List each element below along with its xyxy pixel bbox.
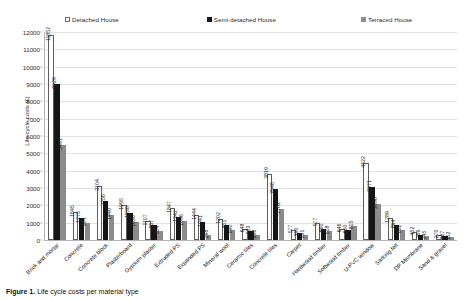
bar-value-label: 227 [439, 231, 445, 240]
bar-value-label: 1782 [275, 202, 281, 214]
bar-group: 184713421096 [166, 32, 190, 240]
bar-value-label: 245 [421, 230, 427, 239]
bar: 9029 [54, 84, 59, 241]
bar: 5491 [60, 145, 65, 240]
bar-value-label: 11852 [45, 27, 51, 41]
x-axis-label-cell: Expanded PS [189, 242, 213, 290]
bar-group: 977660518 [312, 32, 336, 240]
legend-item-semi-detached-house: Semi-detached House [207, 16, 276, 23]
y-axis-tick-mark [40, 222, 43, 223]
bar-value-label: 590 [227, 224, 233, 233]
bar-group: 577390281 [287, 32, 311, 240]
y-axis-tick-mark [40, 205, 43, 206]
bar: 298 [206, 235, 211, 240]
x-axis-label-cell: Brick and mortar [44, 242, 68, 290]
bar: 1030 [133, 222, 138, 240]
bar-value-label: 5491 [57, 138, 63, 150]
chart-figure: Detached House Semi-detached House Terra… [0, 0, 464, 300]
square-grey-icon [361, 17, 366, 22]
bar-value-label: 660 [318, 223, 324, 232]
bar-group: 1202851590 [215, 32, 239, 240]
caption-text: Life cycle costs per material type [37, 288, 139, 295]
bar-group: 1107857504 [142, 32, 166, 240]
y-axis-tick-label: 0 [6, 237, 40, 244]
x-axis-label-cell: U-PVC window [359, 242, 383, 290]
bar: 815 [351, 226, 356, 240]
bar-group: 310422561440 [93, 32, 117, 240]
bar-group: 14441041298 [190, 32, 214, 240]
bar-value-label: 1041 [197, 215, 203, 227]
caption-prefix: Figure 1. [6, 288, 35, 295]
bar-value-label: 269 [415, 230, 421, 239]
y-axis-tick-mark [40, 101, 43, 102]
bar: 2098 [375, 204, 380, 240]
bar-value-label: 1440 [106, 208, 112, 220]
figure-caption: Figure 1. Life cycle costs per material … [6, 288, 139, 295]
bar: 1096 [182, 221, 187, 240]
bar-value-label: 4422 [360, 157, 366, 169]
bar-value-label: 1444 [191, 208, 197, 220]
bar-value-label: 504 [154, 226, 160, 235]
y-axis-tick-mark [40, 118, 43, 119]
bar: 1782 [279, 209, 284, 240]
legend-label: Semi-detached House [214, 16, 276, 23]
bar-group: 648523288 [239, 32, 263, 240]
bar-group: 381929461782 [263, 32, 287, 240]
y-axis-tick-label: 12000 [6, 29, 40, 36]
y-axis-tick-label: 11000 [6, 46, 40, 53]
x-axis-label-cell: Gypsum plaster [141, 242, 165, 290]
bar-value-label: 2256 [100, 194, 106, 206]
y-axis-tick-label: 7000 [6, 115, 40, 122]
y-axis-tick-mark [40, 84, 43, 85]
y-axis-ticks: 0100020003000400050006000700080009000100… [0, 0, 40, 300]
bar: 288 [254, 235, 259, 240]
bar-value-label: 518 [324, 226, 330, 235]
plot-area: 1185290295491164512759643104225614401995… [44, 32, 457, 241]
bar-value-label: 2098 [372, 197, 378, 209]
bar-group: 452269245 [409, 32, 433, 240]
bar-value-label: 1030 [130, 215, 136, 227]
x-axis-labels: Brick and mortarConcreteConcrete blockPl… [44, 242, 456, 290]
bar-group: 199515381030 [118, 32, 142, 240]
bar-value-label: 1995 [118, 199, 124, 211]
bar: 152 [448, 237, 453, 240]
bar: 4422 [363, 163, 368, 240]
y-axis-tick-mark [40, 136, 43, 137]
bar-group: 16451275964 [69, 32, 93, 240]
bar: 3071 [369, 187, 374, 240]
bar-value-label: 815 [348, 221, 354, 230]
bar-value-label: 1202 [215, 212, 221, 224]
square-filled-icon [207, 17, 212, 22]
bar-value-label: 298 [203, 230, 209, 239]
y-axis-tick-mark [40, 66, 43, 67]
bar: 245 [424, 236, 429, 240]
bar: 2946 [273, 189, 278, 240]
y-axis-tick-mark [40, 170, 43, 171]
bar-value-label: 452 [409, 227, 415, 236]
bar: 281 [303, 235, 308, 240]
bar-group: 1185290295491 [45, 32, 69, 240]
bar: 1440 [109, 215, 114, 240]
bar-value-label: 152 [445, 232, 451, 241]
x-axis-label-cell: Concrete block [92, 242, 116, 290]
bar-value-label: 602 [396, 224, 402, 233]
bar-value-label: 3104 [94, 179, 100, 191]
bar-group: 270227152 [433, 32, 457, 240]
y-axis-tick-label: 2000 [6, 202, 40, 209]
bar-value-label: 851 [221, 220, 227, 229]
bar-value-label: 3819 [263, 167, 269, 179]
bar-value-label: 281 [299, 230, 305, 239]
bar: 11852 [48, 35, 53, 240]
x-axis-tick-label: Carpet [286, 242, 303, 258]
y-axis-tick-label: 5000 [6, 150, 40, 157]
bar-group: 442230712098 [360, 32, 384, 240]
y-axis-tick-mark [40, 32, 43, 33]
y-axis-tick-label: 1000 [6, 219, 40, 226]
bar-groups: 1185290295491164512759643104225614401995… [45, 32, 457, 240]
bar-value-label: 2946 [269, 182, 275, 194]
y-axis-tick-label: 6000 [6, 133, 40, 140]
legend-item-terraced-house: Terraced House [361, 16, 412, 23]
y-axis-tick-label: 8000 [6, 98, 40, 105]
bar-value-label: 9029 [51, 77, 57, 89]
y-axis-tick-label: 3000 [6, 185, 40, 192]
